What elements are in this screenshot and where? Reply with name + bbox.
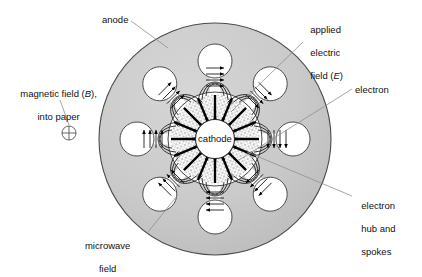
label-microwave-line2: field [99,263,116,274]
label-magnetic-field-line1: magnetic field (B), [20,88,97,99]
label-microwave-line1: microwave [85,240,130,251]
label-microwave-field: microwave field [62,228,148,274]
label-hub-line1: electron [361,200,395,211]
label-applied-electric-field: applied electric field (E) [305,12,343,81]
label-electron: electron [355,84,389,96]
label-hub-line3: spokes [361,246,391,257]
label-anode: anode [102,14,128,26]
label-electron-hub-and-spokes: electron hub and spokes [356,188,396,257]
cathode: cathode [196,120,235,159]
label-hub-line2: hub and [361,223,395,234]
label-magnetic-field: magnetic field (B), into paper [4,76,108,122]
cathode-label: cathode [198,133,232,144]
label-applied-line3: field (E) [310,70,343,81]
magnetic-field-into-page-symbol [62,126,76,140]
label-applied-line2: electric [310,47,340,58]
label-applied-line1: applied [310,24,341,35]
label-magnetic-field-line2: into paper [38,111,80,122]
